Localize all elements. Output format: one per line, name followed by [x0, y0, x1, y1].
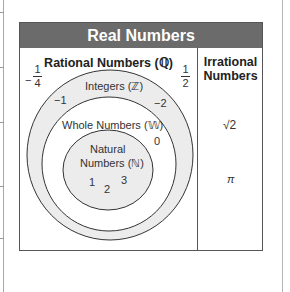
numerator: 1	[34, 63, 40, 75]
denominator: 4	[34, 77, 40, 89]
irrational-title-line1: Irrational	[198, 55, 263, 69]
real-numbers-table: Real Numbers Rational Numbers (ℚ) Irrati…	[19, 22, 263, 251]
natural-label-line1: Natural	[90, 143, 125, 155]
denominator: 2	[182, 77, 188, 89]
rational-numbers-title: Rational Numbers (ℚ)	[20, 55, 197, 70]
whole-numbers-label: Whole Numbers (𝕎)	[62, 119, 163, 132]
fraction-neg-quarter: 1 4	[33, 64, 42, 89]
numerator: 1	[182, 63, 188, 75]
irrational-title-line2: Numbers	[198, 69, 263, 83]
real-numbers-header: Real Numbers	[20, 23, 262, 48]
integer-example: −2	[154, 97, 167, 109]
natural-label-line2: Numbers (ℕ)	[80, 157, 144, 170]
fraction-half: 1 2	[181, 64, 190, 89]
natural-example: 2	[104, 183, 110, 195]
fraction-sign: −	[25, 74, 31, 86]
irrational-numbers-title: Irrational Numbers	[198, 55, 263, 83]
natural-example: 3	[121, 174, 127, 186]
natural-example: 1	[89, 176, 95, 188]
whole-example: 0	[154, 135, 160, 147]
integers-label: Integers (ℤ)	[85, 80, 143, 93]
irrational-example-sqrt2: √2	[223, 118, 236, 132]
irrational-example-pi: π	[227, 173, 234, 185]
integer-example: −1	[54, 94, 67, 106]
